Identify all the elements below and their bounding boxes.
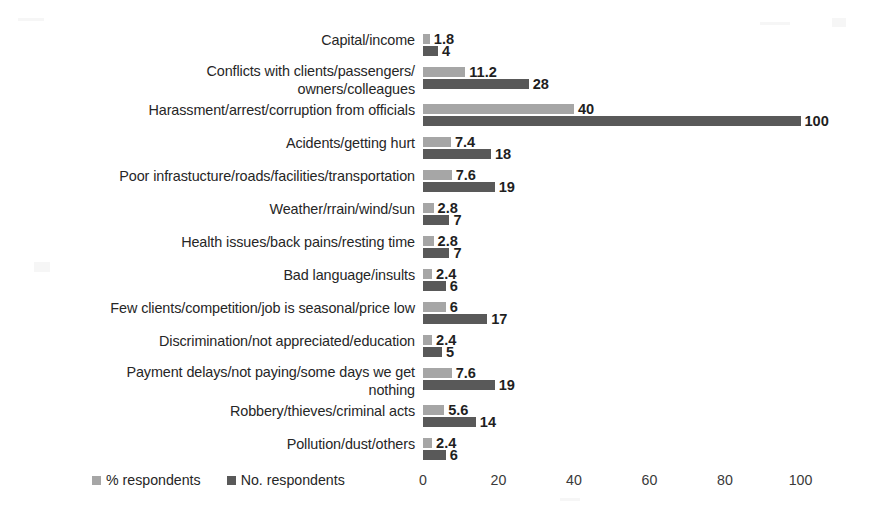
category-label: Conflicts with clients/passengers/ owner… bbox=[15, 62, 415, 98]
category-row: Poor infrastucture/roads/facilities/tran… bbox=[0, 166, 870, 199]
category-label: Pollution/dust/others bbox=[15, 435, 415, 453]
x-axis-tick: 80 bbox=[717, 472, 733, 488]
bar-pct-respondents bbox=[423, 368, 452, 378]
bar-pct-respondents bbox=[423, 137, 451, 147]
category-row: Payment delays/not paying/some days we g… bbox=[0, 364, 870, 401]
category-row: Pollution/dust/others2.46 bbox=[0, 434, 870, 467]
bar-value-label: 7.6 bbox=[452, 365, 476, 381]
bar-value-label: 6 bbox=[446, 299, 458, 315]
category-label: Bad language/insults bbox=[15, 266, 415, 284]
bar-no-respondents bbox=[423, 347, 442, 357]
bar-no-respondents bbox=[423, 248, 449, 258]
category-label: Robbery/thieves/criminal acts bbox=[15, 402, 415, 420]
bar-pct-respondents bbox=[423, 104, 574, 114]
bar-value-label: 6 bbox=[446, 278, 458, 294]
category-row: Discrimination/not appreciated/education… bbox=[0, 331, 870, 364]
scan-artifact bbox=[18, 18, 44, 21]
bar-no-respondents bbox=[423, 380, 495, 390]
bar-value-label: 19 bbox=[495, 377, 515, 393]
category-row: Acidents/getting hurt7.418 bbox=[0, 133, 870, 166]
bar-no-respondents bbox=[423, 450, 446, 460]
bar-value-label: 5.6 bbox=[444, 402, 468, 418]
bar-value-label: 7.6 bbox=[452, 167, 476, 183]
bar-pct-respondents bbox=[423, 438, 432, 448]
bar-pct-respondents bbox=[423, 269, 432, 279]
category-label: Harassment/arrest/corruption from offici… bbox=[15, 101, 415, 119]
bar-no-respondents bbox=[423, 182, 495, 192]
category-label: Poor infrastucture/roads/facilities/tran… bbox=[15, 167, 415, 185]
category-label: Weather/rrain/wind/sun bbox=[15, 200, 415, 218]
plot-area: Capital/income1.84Conflicts with clients… bbox=[0, 30, 870, 468]
bar-pct-respondents bbox=[423, 34, 430, 44]
bar-chart: Capital/income1.84Conflicts with clients… bbox=[0, 0, 870, 531]
bar-no-respondents bbox=[423, 79, 529, 89]
bar-value-label: 18 bbox=[491, 146, 511, 162]
bar-value-label: 11.2 bbox=[465, 64, 497, 80]
bar-value-label: 5 bbox=[442, 344, 454, 360]
x-axis-tick: 40 bbox=[566, 472, 582, 488]
bar-value-label: 6 bbox=[446, 447, 458, 463]
bar-no-respondents bbox=[423, 215, 449, 225]
bar-pct-respondents bbox=[423, 236, 434, 246]
scan-artifact bbox=[832, 18, 846, 27]
chart-footer: % respondentsNo. respondents 02040608010… bbox=[0, 472, 870, 502]
x-axis-tick: 100 bbox=[789, 472, 813, 488]
category-row: Few clients/competition/job is seasonal/… bbox=[0, 298, 870, 331]
category-row: Capital/income1.84 bbox=[0, 30, 870, 63]
bar-no-respondents bbox=[423, 46, 438, 56]
x-axis-tick: 20 bbox=[491, 472, 507, 488]
bar-pct-respondents bbox=[423, 405, 444, 415]
bar-no-respondents bbox=[423, 281, 446, 291]
category-row: Harassment/arrest/corruption from offici… bbox=[0, 100, 870, 133]
x-axis-tick: 0 bbox=[419, 472, 427, 488]
category-row: Robbery/thieves/criminal acts5.614 bbox=[0, 401, 870, 434]
bar-value-label: 28 bbox=[529, 76, 549, 92]
category-label: Capital/income bbox=[15, 31, 415, 49]
category-row: Health issues/back pains/resting time2.8… bbox=[0, 232, 870, 265]
bar-pct-respondents bbox=[423, 67, 465, 77]
bar-pct-respondents bbox=[423, 302, 446, 312]
bar-value-label: 4 bbox=[438, 43, 450, 59]
bar-no-respondents bbox=[423, 314, 487, 324]
bar-no-respondents bbox=[423, 417, 476, 427]
category-label: Health issues/back pains/resting time bbox=[15, 233, 415, 251]
category-label: Few clients/competition/job is seasonal/… bbox=[15, 299, 415, 317]
x-axis-tick: 60 bbox=[642, 472, 658, 488]
bar-no-respondents bbox=[423, 149, 491, 159]
bar-value-label: 40 bbox=[574, 101, 594, 117]
bar-pct-respondents bbox=[423, 170, 452, 180]
x-axis-tick-labels: 020406080100 bbox=[0, 472, 870, 494]
category-label: Discrimination/not appreciated/education bbox=[15, 332, 415, 350]
bar-value-label: 7.4 bbox=[451, 134, 475, 150]
scan-artifact bbox=[760, 22, 790, 25]
bar-value-label: 19 bbox=[495, 179, 515, 195]
bar-pct-respondents bbox=[423, 335, 432, 345]
category-label: Payment delays/not paying/some days we g… bbox=[15, 363, 415, 399]
category-row: Conflicts with clients/passengers/ owner… bbox=[0, 63, 870, 100]
category-row: Bad language/insults2.46 bbox=[0, 265, 870, 298]
bar-pct-respondents bbox=[423, 203, 434, 213]
bar-value-label: 17 bbox=[487, 311, 507, 327]
category-row: Weather/rrain/wind/sun2.87 bbox=[0, 199, 870, 232]
bar-value-label: 7 bbox=[449, 212, 461, 228]
bar-value-label: 14 bbox=[476, 414, 496, 430]
bar-value-label: 7 bbox=[449, 245, 461, 261]
bar-value-label: 100 bbox=[801, 113, 829, 129]
bar-no-respondents bbox=[423, 116, 801, 126]
category-label: Acidents/getting hurt bbox=[15, 134, 415, 152]
